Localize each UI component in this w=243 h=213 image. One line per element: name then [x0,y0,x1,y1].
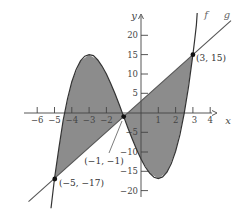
y-tick-label: 15 [127,50,138,60]
series-label-g: g [224,9,230,20]
y-tick-label: −15 [120,166,138,176]
x-tick-label: −3 [83,115,96,125]
x-tick-label: 2 [173,115,178,125]
chart: −6 −5 −4 −3 −2 1 2 3 4 x 20 15 10 5 −5 −… [0,0,243,213]
y-tick-label: 10 [127,69,138,79]
point-3-15 [191,52,196,57]
x-tick-label: 4 [207,115,212,125]
x-tick-label: 3 [192,115,197,125]
annotation-neg1-neg1: (−1, −1) [84,156,123,166]
y-tick-label: 5 [133,88,138,98]
y-axis-label: y [130,10,137,21]
y-tick-label: −5 [125,127,138,137]
y-tick-label: −20 [120,186,138,196]
point-neg5-neg17 [52,177,57,182]
annotation-neg5-neg17: (−5, −17) [59,178,104,188]
x-tick-label: 1 [156,115,161,125]
x-tick-label: −4 [66,115,79,125]
x-axis-label: x [225,115,231,126]
x-tick-label: −5 [48,115,61,125]
x-tick-label: −2 [100,115,113,125]
series-label-f: f [203,9,210,20]
annotation-3-15: (3, 15) [196,53,226,63]
point-neg1-neg1 [121,114,126,119]
y-tick-label: 20 [127,30,138,40]
x-tick-label: −6 [31,115,44,125]
